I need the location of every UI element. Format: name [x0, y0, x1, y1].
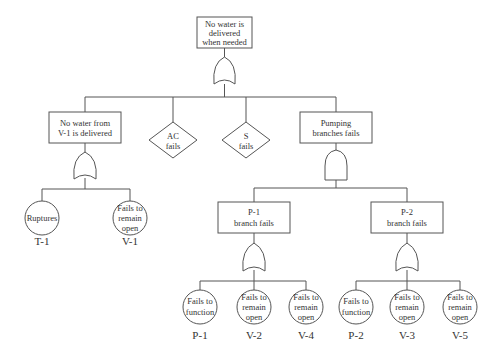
event-line-2: function	[342, 307, 371, 317]
event-line-2: branches fails	[313, 128, 360, 138]
or-gate-icon	[243, 243, 266, 271]
event-line-2: function	[186, 307, 215, 317]
basic-event-v1[interactable]: Fails to remain open V-1	[113, 201, 147, 247]
event-line-1: P-2	[401, 207, 413, 217]
and-gate-icon	[325, 150, 347, 180]
event-line-2: fails	[239, 141, 254, 151]
event-line-2: remain	[448, 302, 472, 312]
event-line-2: remain	[395, 302, 419, 312]
event-line-2: branch fails	[234, 218, 274, 228]
event-line-1: Ruptures	[27, 213, 58, 223]
top-event[interactable]: No water is delivered when needed	[197, 17, 252, 48]
event-line-3: open	[399, 312, 416, 322]
basic-event-p1[interactable]: Fails to function P-1	[183, 290, 217, 341]
event-line-3: open	[246, 312, 263, 322]
component-label: P-1	[192, 329, 207, 341]
event-line-1: Fails to	[241, 292, 266, 302]
top-event-line-3: when needed	[202, 37, 247, 47]
event-line-1: Fails to	[117, 203, 142, 213]
or-gate-icon	[74, 152, 97, 179]
component-label: T-1	[35, 235, 50, 247]
event-line-1: Pumping	[321, 118, 352, 128]
component-label: V-2	[246, 329, 262, 341]
event-line-1: P-1	[248, 207, 260, 217]
fault-tree-diagram: No water is delivered when needed No wat…	[0, 0, 500, 359]
or-gate-icon	[214, 57, 236, 84]
component-label: V-5	[452, 329, 469, 341]
event-line-1: Fails to	[293, 292, 318, 302]
or-gate-icon	[396, 243, 419, 271]
event-line-2: remain	[118, 213, 142, 223]
component-label: V-1	[122, 235, 138, 247]
basic-event-t1[interactable]: Ruptures T-1	[25, 201, 59, 247]
event-line-3: open	[122, 223, 139, 233]
event-line-3: open	[452, 312, 469, 322]
event-no-water-v1[interactable]: No water from V-1 is delivered	[49, 112, 121, 143]
event-line-2: V-1 is delivered	[58, 128, 113, 138]
event-line-1: S	[244, 131, 249, 141]
component-label: V-4	[298, 329, 315, 341]
component-label: P-2	[348, 329, 363, 341]
event-line-2: remain	[294, 302, 318, 312]
basic-event-p2[interactable]: Fails to function P-2	[339, 290, 373, 341]
event-line-2: fails	[166, 141, 181, 151]
event-line-1: No water from	[60, 118, 110, 128]
event-line-1: Fails to	[343, 296, 368, 306]
event-line-1: AC	[167, 131, 179, 141]
basic-event-v4[interactable]: Fails to remain open V-4	[289, 290, 323, 341]
event-p2-branch[interactable]: P-2 branch fails	[371, 202, 443, 233]
basic-event-v5[interactable]: Fails to remain open V-5	[443, 290, 477, 341]
undeveloped-event-s[interactable]: S fails	[222, 122, 270, 158]
event-line-2: remain	[242, 302, 266, 312]
event-line-2: branch fails	[387, 218, 427, 228]
event-line-3: open	[298, 312, 315, 322]
basic-event-v2[interactable]: Fails to remain open V-2	[237, 290, 271, 341]
event-pumping-branches[interactable]: Pumping branches fails	[300, 112, 372, 143]
event-p1-branch[interactable]: P-1 branch fails	[218, 202, 290, 233]
component-label: V-3	[399, 329, 416, 341]
event-line-1: Fails to	[394, 292, 419, 302]
event-line-1: Fails to	[187, 296, 212, 306]
undeveloped-event-ac[interactable]: AC fails	[149, 122, 197, 158]
basic-event-v3[interactable]: Fails to remain open V-3	[390, 290, 424, 341]
event-line-1: Fails to	[447, 292, 472, 302]
